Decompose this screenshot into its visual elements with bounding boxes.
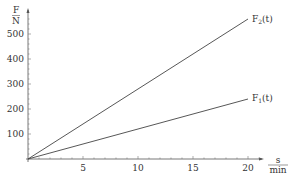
x-axis-label: s min — [268, 155, 288, 175]
svg-text:min: min — [269, 165, 286, 175]
y-tick-label: 100 — [7, 129, 24, 139]
svg-text:s: s — [276, 155, 281, 165]
x-axis — [26, 158, 264, 161]
x-tick-label: 20 — [242, 163, 254, 173]
x-tick-label: 15 — [187, 163, 199, 173]
x-axis-arrow-icon — [259, 158, 264, 161]
x-ticks — [39, 156, 259, 159]
y-tick-label: 300 — [7, 79, 24, 89]
y-axis-label: F N — [12, 5, 20, 26]
svg-text:F: F — [13, 5, 19, 15]
y-tick-label: 500 — [7, 29, 24, 39]
y-ticks — [28, 19, 31, 154]
series-line-f1 — [28, 99, 248, 159]
x-tick-labels: 5 10 15 20 — [80, 163, 254, 173]
line-chart: 100 200 300 400 500 5 10 15 20 F N s min — [0, 0, 293, 181]
series-label-f2: F2(t) — [252, 14, 273, 25]
series-label-f1: F1(t) — [252, 93, 273, 104]
y-tick-labels: 100 200 300 400 500 — [7, 29, 24, 139]
y-tick-label: 200 — [7, 104, 24, 114]
x-tick-label: 10 — [132, 163, 144, 173]
series-line-f2 — [28, 19, 248, 159]
x-tick-label: 5 — [80, 163, 86, 173]
y-tick-label: 400 — [7, 54, 24, 64]
svg-text:N: N — [12, 16, 20, 26]
y-axis-arrow-icon — [27, 8, 30, 13]
